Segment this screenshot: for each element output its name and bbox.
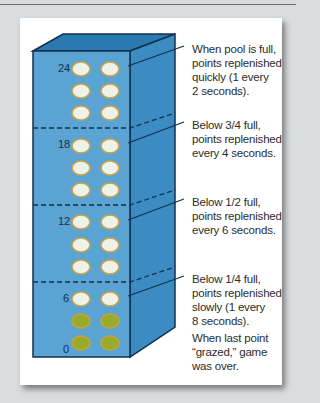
scale-label-6: 6	[63, 292, 69, 304]
callout-line: 8 seconds).	[192, 314, 282, 328]
full-point	[72, 139, 90, 153]
full-point	[72, 215, 90, 229]
full-point	[72, 238, 90, 252]
scale-label-0: 0	[63, 343, 69, 355]
callout-line: was over.	[192, 359, 268, 373]
callout-line: When pool is full,	[192, 42, 282, 56]
full-point	[101, 161, 119, 175]
full-point	[72, 84, 90, 98]
full-point	[72, 62, 90, 76]
grazed-point	[101, 336, 119, 350]
callout-line: 2 seconds).	[192, 84, 282, 98]
grazed-point	[72, 314, 90, 328]
pool-right-face	[130, 34, 175, 357]
callout-line: every 4 seconds.	[192, 146, 282, 160]
scale-label-18: 18	[58, 138, 70, 150]
callout-half: Below 1/2 full,points replenishedevery 6…	[192, 195, 282, 237]
full-point	[101, 62, 119, 76]
full-point	[72, 183, 90, 197]
callout-line: quickly (1 every	[192, 70, 282, 84]
callout-line: When last point	[192, 331, 268, 345]
full-point	[101, 106, 119, 120]
callout-line: points replenished	[192, 132, 282, 146]
callout-line: Below 1/2 full,	[192, 195, 282, 209]
callout-line: “grazed,” game	[192, 345, 268, 359]
full-point	[101, 292, 119, 306]
full-point	[101, 84, 119, 98]
callout-line: Below 1/4 full,	[192, 272, 282, 286]
callout-line: points replenished	[192, 56, 282, 70]
callout-line: every 6 seconds.	[192, 223, 282, 237]
scale-label-24: 24	[58, 62, 70, 74]
callout-line: points replenished	[192, 209, 282, 223]
full-point	[72, 161, 90, 175]
full-point	[101, 260, 119, 274]
full-point	[101, 238, 119, 252]
callout-game-over: When last point“grazed,” gamewas over.	[192, 331, 268, 373]
full-point	[101, 183, 119, 197]
callout-line: slowly (1 every	[192, 300, 282, 314]
callout-line: points replenished	[192, 286, 282, 300]
grazed-point	[101, 314, 119, 328]
full-point	[72, 292, 90, 306]
callout-three-quarter: Below 3/4 full,points replenishedevery 4…	[192, 118, 282, 160]
full-point	[101, 139, 119, 153]
callout-quarter: Below 1/4 full,points replenishedslowly …	[192, 272, 282, 328]
full-point	[101, 215, 119, 229]
callout-line: Below 3/4 full,	[192, 118, 282, 132]
full-point	[72, 106, 90, 120]
grazed-point	[72, 336, 90, 350]
callout-full: When pool is full,points replenishedquic…	[192, 42, 282, 98]
full-point	[72, 260, 90, 274]
scale-label-12: 12	[58, 215, 70, 227]
